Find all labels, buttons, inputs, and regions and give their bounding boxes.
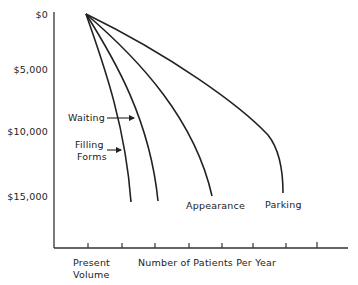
x-ticks: [88, 242, 317, 248]
chart-canvas: [0, 0, 358, 285]
y-tick-5000: $5,000: [0, 64, 48, 75]
label-parking: Parking: [265, 199, 302, 210]
label-filling: Filling: [75, 139, 104, 150]
label-appearance: Appearance: [186, 200, 245, 211]
y-tick-15000: $15,000: [0, 191, 48, 202]
series-appearance: [86, 14, 212, 196]
x-axis-title: Number of Patients Per Year: [138, 257, 276, 268]
series-filling-forms: [86, 14, 131, 202]
series-waiting: [86, 14, 158, 201]
label-waiting: Waiting: [68, 112, 105, 123]
y-tick-10000: $10,000: [0, 126, 48, 137]
y-tick-0: $0: [0, 9, 48, 20]
x-origin-label-volume: Volume: [73, 269, 110, 280]
x-origin-label-present: Present: [73, 257, 110, 268]
label-forms: Forms: [77, 151, 107, 162]
